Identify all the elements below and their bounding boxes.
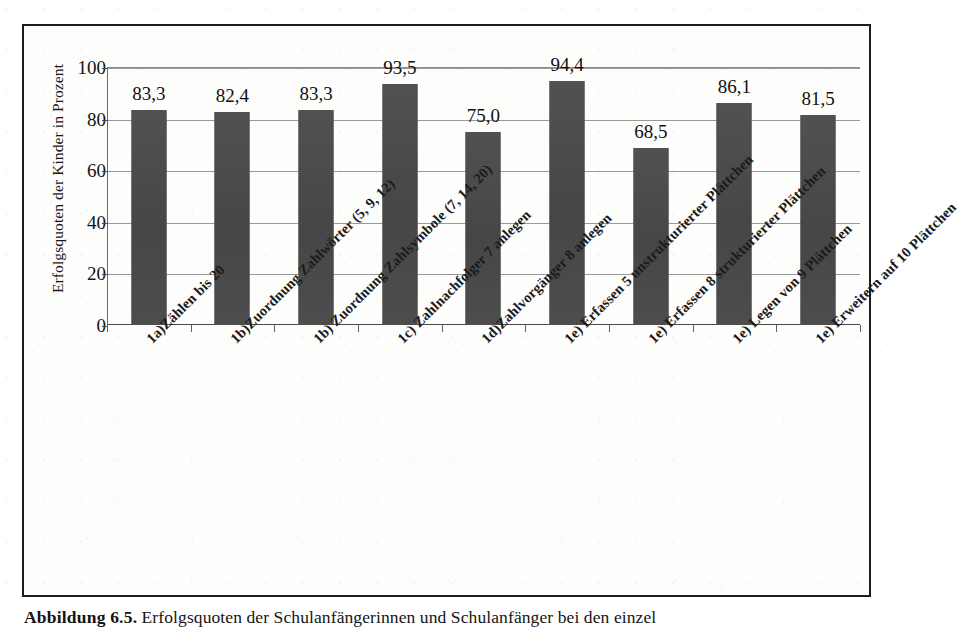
y-tick-label: 0	[60, 316, 106, 335]
bar-value-label: 82,4	[216, 86, 249, 105]
bars-layer: 83,382,483,393,575,094,468,586,181,5	[107, 67, 860, 325]
bar[interactable]	[382, 84, 417, 325]
figure-caption: Abbildung 6.5. Erfolgsquoten der Schulan…	[24, 606, 872, 628]
y-tick-label: 80	[60, 110, 106, 129]
bar-value-label: 83,3	[300, 84, 333, 103]
bar-value-label: 86,1	[718, 77, 751, 96]
figure-caption-label: Abbildung 6.5.	[24, 607, 137, 627]
bar-value-label: 75,0	[467, 106, 500, 125]
bar-value-label: 83,3	[132, 84, 165, 103]
x-tick-mark	[860, 325, 861, 332]
bar[interactable]	[131, 110, 166, 325]
bar[interactable]	[215, 112, 250, 325]
bar[interactable]	[717, 103, 752, 325]
bar-value-label: 93,5	[383, 58, 416, 77]
bar-value-label: 94,4	[551, 55, 584, 74]
bar-slot: 83,3	[107, 67, 191, 325]
bar-value-label: 81,5	[802, 89, 835, 108]
bar-value-label: 68,5	[634, 122, 667, 141]
figure-frame: Erfolgsquoten der Kinder in Prozent 0204…	[22, 24, 871, 597]
bar[interactable]	[550, 81, 585, 325]
bar[interactable]	[801, 115, 836, 325]
bar[interactable]	[299, 110, 334, 325]
y-tick-label: 100	[60, 58, 106, 77]
x-axis-category-labels: 1a)Zählen bis 201b)Zuordnung Zahlwörter …	[107, 325, 860, 575]
y-tick-label: 40	[60, 213, 106, 232]
y-tick-label: 20	[60, 264, 106, 283]
y-tick-label: 60	[60, 161, 106, 180]
figure-caption-text: Erfolgsquoten der Schulanfängerinnen und…	[142, 607, 657, 627]
bar-chart: Erfolgsquoten der Kinder in Prozent 0204…	[24, 26, 873, 599]
y-axis-tick-labels: 020406080100	[58, 26, 106, 599]
